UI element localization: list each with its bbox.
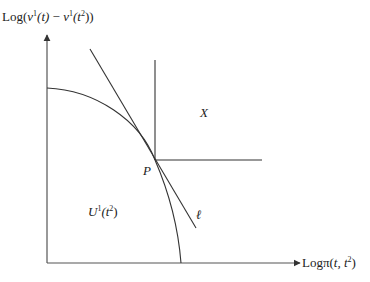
y-label-arg1: (t): [37, 9, 49, 24]
y-label-arg2: (t: [73, 9, 81, 24]
frontier-curve: [47, 88, 181, 263]
x-label-prefix: Logπ(: [302, 255, 334, 270]
y-label-minus: −: [49, 9, 63, 24]
region-u-label: U1(t2): [88, 205, 118, 218]
region-x-label: X: [200, 106, 208, 119]
y-label-prefix: Log(: [2, 9, 27, 24]
diagram-canvas: [0, 0, 370, 282]
point-p-label: P: [143, 164, 151, 177]
y-axis-label: Log(v1(t) − v1(t2)): [2, 10, 94, 23]
x-axis-label: Logπ(t, t2): [302, 256, 356, 269]
x-label-suffix: ): [352, 255, 356, 270]
region-u-close: ): [113, 204, 117, 219]
tangent-line-label: ℓ: [196, 208, 201, 221]
tangent-line: [90, 49, 196, 228]
region-u-letter: U: [88, 204, 97, 219]
x-label-args: t, t: [334, 255, 348, 270]
y-label-suffix: )): [85, 9, 94, 24]
